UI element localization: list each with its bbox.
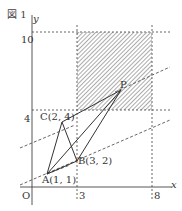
y-axis-label: y [33, 14, 39, 24]
x-tick-3: 3 [79, 191, 85, 201]
figure-1: 図 1 [0, 0, 182, 211]
y-tick-4: 4 [24, 114, 30, 124]
x-axis-label: x [171, 180, 177, 190]
point-a-label: A(1, 1) [42, 175, 76, 185]
point-b-label: B(3, 2) [78, 156, 112, 166]
shaded-region [77, 32, 152, 110]
coordinate-plane [0, 0, 182, 211]
point-p-label: P [120, 80, 127, 90]
origin-label: O [22, 191, 30, 201]
point-c-label: C(2, 4) [40, 112, 75, 122]
y-tick-10: 10 [21, 35, 34, 45]
x-tick-8: 8 [154, 191, 160, 201]
